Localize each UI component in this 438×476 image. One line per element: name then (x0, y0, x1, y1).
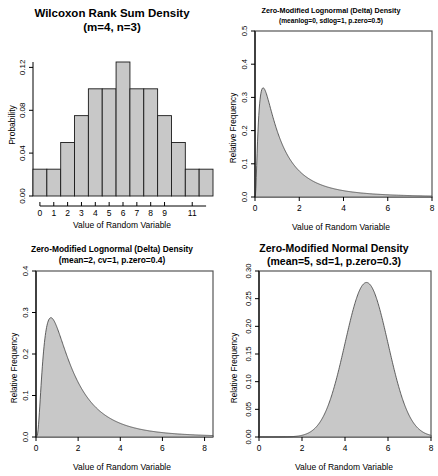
x-axis-label: Value of Random Variable (73, 220, 171, 230)
y-axis: 0.000.050.100.150.200.250.30 (244, 264, 259, 445)
x-tick-label: 6 (386, 443, 391, 453)
chart-title: Zero-Modified Normal Density (259, 242, 409, 254)
y-tick-label: 0.0 (21, 432, 30, 443)
chart-subtitle: (mean=2, cv=1, p.zero=0.4) (59, 255, 166, 265)
bar (88, 89, 102, 196)
y-tick-label: 0.00 (244, 430, 253, 445)
x-tick-label: 7 (134, 208, 139, 218)
panel-zero-modified-normal: Zero-Modified Normal Density (mean=5, sd… (219, 238, 438, 476)
x-axis: 02468 (253, 197, 435, 213)
x-tick-label: 0 (38, 208, 43, 218)
x-axis: 02468 (257, 437, 434, 453)
panel-zero-modified-lognormal-meanlog: Zero-Modified Lognormal (Delta) Density … (219, 0, 438, 238)
bar (130, 89, 144, 196)
x-tick-label: 0 (253, 203, 258, 213)
bar (47, 169, 61, 196)
bar (144, 89, 158, 196)
x-tick-label: 2 (300, 443, 305, 453)
x-tick-label: 1 (51, 208, 56, 218)
bar (158, 116, 172, 196)
figure-grid: Wilcoxon Rank Sum Density (m=4, n=3) Pro… (0, 0, 438, 476)
zm-lognormal-2-svg: Zero-Modified Lognormal (Delta) Density … (0, 238, 219, 476)
y-tick-label: 0.3 (240, 92, 249, 103)
x-tick-label: 4 (341, 203, 346, 213)
density-area (255, 88, 432, 197)
bar (33, 169, 47, 196)
density-area (259, 282, 431, 437)
y-tick-label: 0.4 (21, 266, 30, 277)
bar (102, 89, 116, 196)
x-axis: 02468 (34, 437, 208, 453)
y-tick-label: 0.30 (244, 264, 253, 279)
zm-normal-svg: Zero-Modified Normal Density (mean=5, sd… (219, 238, 438, 476)
x-tick-label: 6 (121, 208, 126, 218)
y-tick-label: 0.1 (240, 159, 249, 170)
wilcoxon-chart-svg: Wilcoxon Rank Sum Density (m=4, n=3) Pro… (0, 0, 219, 238)
density-curve (36, 318, 213, 437)
y-tick-label: 0.12 (18, 59, 27, 75)
x-tick-label: 8 (429, 443, 434, 453)
panel-wilcoxon-rank-sum-density: Wilcoxon Rank Sum Density (m=4, n=3) Pro… (0, 0, 219, 238)
density-curve (255, 88, 432, 197)
y-tick-label: 0.2 (240, 125, 249, 136)
y-tick-label: 0.05 (244, 402, 253, 417)
x-tick-label: 8 (202, 443, 207, 453)
density-curve (259, 282, 431, 437)
x-tick-label: 3 (79, 208, 84, 218)
y-axis: 0.00 0.04 0.08 0.12 (18, 59, 33, 204)
y-tick-label: 0.08 (18, 102, 27, 118)
chart-title: Zero-Modified Lognormal (Delta) Density (262, 6, 401, 15)
chart-subtitle: (meanlog=0, sdlog=1, p.zero=0.5) (279, 17, 383, 25)
chart-title: Wilcoxon Rank Sum Density (34, 7, 190, 19)
chart-subtitle: (m=4, n=3) (83, 21, 141, 33)
density-area (36, 318, 213, 437)
y-tick-label: 0.1 (21, 390, 30, 401)
y-tick-label: 0.15 (244, 347, 253, 362)
x-tick-label: 8 (148, 208, 153, 218)
x-axis-label: Value of Random Variable (295, 462, 393, 472)
x-tick-label: 9 (162, 208, 167, 218)
x-tick-label: 5 (107, 208, 112, 218)
x-tick-label: 8 (430, 203, 435, 213)
y-tick-label: 0.25 (244, 291, 253, 306)
x-tick-label: 0 (34, 443, 39, 453)
x-axis-label: Value of Random Variable (292, 222, 390, 232)
y-tick-label: 0.0 (240, 192, 249, 203)
y-tick-label: 0.4 (240, 59, 249, 70)
y-tick-label: 0.20 (244, 319, 253, 334)
chart-title: Zero-Modified Lognormal (Delta) Density (31, 244, 193, 254)
y-tick-label: 0.04 (18, 145, 27, 161)
bar (116, 62, 130, 196)
y-axis-label: Probability (7, 104, 17, 144)
x-tick-label: 2 (65, 208, 70, 218)
y-tick-label: 0.2 (21, 349, 30, 360)
y-axis-label: Relative Frequency (230, 332, 239, 403)
x-tick-label: 6 (385, 203, 390, 213)
bar (171, 142, 185, 196)
y-axis-label: Relative Frequency (10, 332, 19, 403)
y-axis-label: Relative Frequency (229, 92, 238, 163)
y-tick-label: 0.00 (18, 188, 27, 204)
y-tick-label: 0.10 (244, 374, 253, 389)
x-tick-label: 4 (343, 443, 348, 453)
y-tick-label: 0.5 (240, 26, 249, 37)
x-tick-label: 0 (257, 443, 262, 453)
bar-series (33, 62, 213, 196)
x-tick-label: 4 (93, 208, 98, 218)
x-tick-label: 6 (160, 443, 165, 453)
bar (61, 142, 75, 196)
chart-subtitle: (mean=5, sd=1, p.zero=0.3) (267, 255, 401, 267)
x-tick-label: 2 (297, 203, 302, 213)
x-axis-label: Value of Random Variable (73, 462, 171, 472)
panel-zero-modified-lognormal-mean-cv: Zero-Modified Lognormal (Delta) Density … (0, 238, 219, 476)
zm-lognormal-1-svg: Zero-Modified Lognormal (Delta) Density … (219, 0, 438, 238)
x-tick-label: 2 (76, 443, 81, 453)
bar (185, 169, 199, 196)
y-axis: 0.00.10.20.30.40.5 (240, 26, 255, 203)
x-axis: 012345678911 (38, 202, 207, 218)
x-tick-label: 4 (118, 443, 123, 453)
y-tick-label: 0.3 (21, 307, 30, 318)
y-axis: 0.00.10.20.30.4 (21, 266, 36, 443)
x-tick-label: 11 (188, 208, 197, 218)
bar (75, 116, 89, 196)
